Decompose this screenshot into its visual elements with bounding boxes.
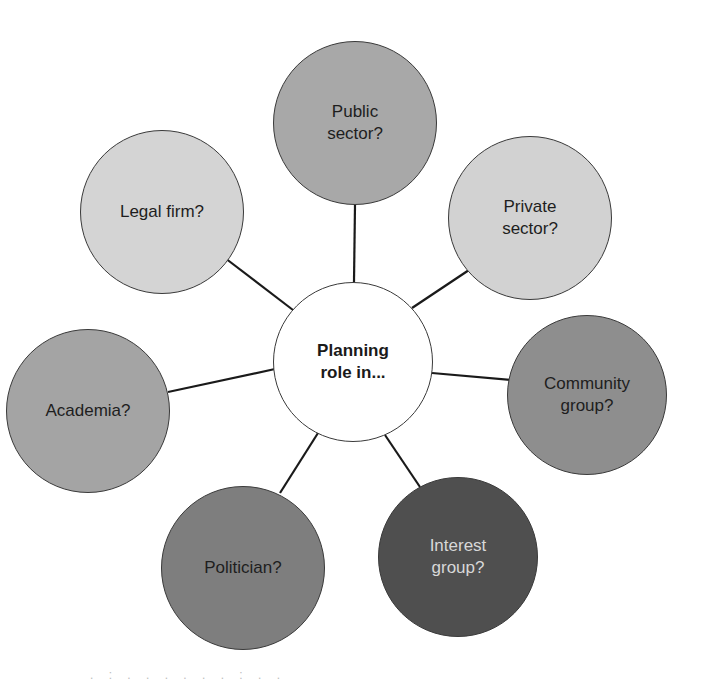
node-public-sector: Public sector? xyxy=(273,41,437,205)
node-academia: Academia? xyxy=(6,329,170,493)
node-label: Academia? xyxy=(45,400,130,422)
node-interest-group: Interest group? xyxy=(378,477,538,637)
node-private-sector: Private sector? xyxy=(448,136,612,300)
cropped-caption-fragment: . : . . . . . . : . . xyxy=(90,668,286,682)
connector-line xyxy=(168,369,275,392)
connector-line xyxy=(225,258,293,310)
connector-line xyxy=(432,373,511,380)
connector-line xyxy=(385,435,420,487)
node-label: Interest group? xyxy=(430,535,487,579)
node-community-group: Community group? xyxy=(507,315,667,475)
connector-line xyxy=(280,433,318,493)
center-node-planning-role: Planning role in... xyxy=(273,282,433,442)
node-politician: Politician? xyxy=(161,486,325,650)
node-label: Legal firm? xyxy=(120,201,204,223)
node-label: Politician? xyxy=(204,557,282,579)
connector-line xyxy=(412,270,469,308)
node-label: Public sector? xyxy=(327,101,383,145)
node-label: Community group? xyxy=(544,373,630,417)
node-legal-firm: Legal firm? xyxy=(80,130,244,294)
connector-line xyxy=(354,205,355,282)
node-label: Private sector? xyxy=(502,196,558,240)
center-node-label: Planning role in... xyxy=(317,340,389,384)
